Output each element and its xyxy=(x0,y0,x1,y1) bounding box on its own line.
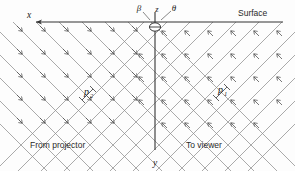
ray-arrowhead xyxy=(277,100,282,105)
ray-arrowhead xyxy=(17,26,22,31)
ray-arrowhead xyxy=(40,95,45,100)
ray-arrowhead xyxy=(40,49,45,54)
ray-arrowhead xyxy=(40,26,45,31)
ray-arrowhead xyxy=(17,49,22,54)
ray-arrowhead xyxy=(254,100,259,105)
ray-arrowhead xyxy=(63,49,68,54)
ray-arrowhead xyxy=(208,54,213,59)
from-projector-label: From projector xyxy=(30,140,85,150)
angle-beta-label: β xyxy=(136,3,142,13)
ray-arrowhead xyxy=(17,118,22,123)
ray-arrowhead xyxy=(277,54,282,59)
ray-arrowhead xyxy=(277,31,282,36)
diagram-canvas: x y z β θ Surface From projector To view… xyxy=(0,0,295,171)
ray-arrowhead xyxy=(17,72,22,77)
ray-arrowhead xyxy=(109,26,114,31)
ray-arrowhead xyxy=(17,95,22,100)
period-right-label: p xyxy=(217,84,223,95)
angle-theta-label: θ xyxy=(172,3,177,13)
ray-arrowhead xyxy=(63,72,68,77)
ray-arrowhead xyxy=(208,31,213,36)
x-axis-label: x xyxy=(26,10,32,20)
ray-arrowhead xyxy=(231,54,236,59)
ray-down-right xyxy=(151,22,295,171)
period-left-label: p xyxy=(83,86,89,97)
ray-arrowhead xyxy=(254,31,259,36)
surface-label: Surface xyxy=(238,8,268,18)
ray-arrowhead xyxy=(86,26,91,31)
ray-arrowhead xyxy=(40,72,45,77)
angle-leader-theta xyxy=(161,11,171,20)
ray-arrowhead xyxy=(231,31,236,36)
ray-arrowhead xyxy=(86,49,91,54)
ray-arrowhead xyxy=(277,77,282,82)
ray-down-left xyxy=(235,22,295,171)
period-right-subscript: 1 xyxy=(224,90,227,97)
angle-leader-beta xyxy=(143,12,150,20)
ray-arrowhead xyxy=(254,77,259,82)
ray-arrowhead xyxy=(185,31,190,36)
ray-arrowhead xyxy=(231,77,236,82)
y-axis-label: y xyxy=(152,158,158,168)
ray-arrowhead xyxy=(63,26,68,31)
ray-arrowhead xyxy=(254,54,259,59)
to-viewer-label: To viewer xyxy=(186,140,222,150)
ray-geometry-figure: x y z β θ Surface From projector To view… xyxy=(0,0,295,171)
z-axis-label: z xyxy=(154,4,159,14)
